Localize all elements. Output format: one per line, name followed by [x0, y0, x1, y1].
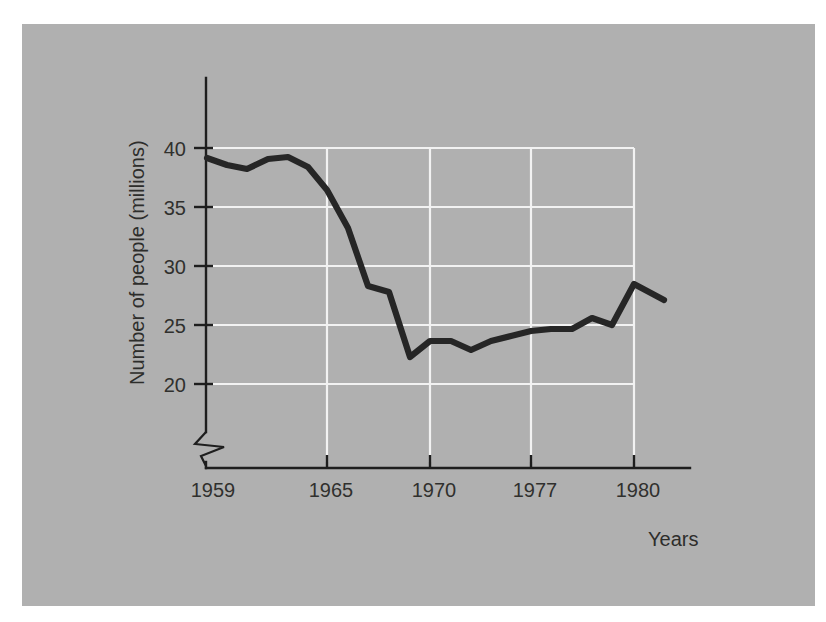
x-tick-label-1965: 1965 — [309, 479, 354, 501]
y-tick-label-20: 20 — [164, 374, 186, 396]
vertical-gridlines — [327, 148, 634, 462]
y-tick-label-25: 25 — [164, 315, 186, 337]
y-tick-label-30: 30 — [164, 256, 186, 278]
y-axis-break-icon — [195, 432, 224, 466]
x-tick-label-1970: 1970 — [412, 479, 457, 501]
x-tick-label-1977: 1977 — [513, 479, 558, 501]
x-axis-title: Years — [648, 528, 698, 550]
data-series-line — [207, 157, 664, 357]
y-axis-title: Number of people (millions) — [126, 140, 148, 385]
x-tick-label-1980: 1980 — [616, 479, 661, 501]
y-tick-label-40: 40 — [164, 138, 186, 160]
y-tick-label-35: 35 — [164, 197, 186, 219]
x-tick-label-1959: 1959 — [191, 479, 236, 501]
figure-page: 40 35 30 25 20 1959 1965 1970 1977 1980 … — [0, 0, 826, 622]
line-chart: 40 35 30 25 20 1959 1965 1970 1977 1980 … — [0, 0, 826, 622]
y-tick-marks — [194, 148, 213, 384]
